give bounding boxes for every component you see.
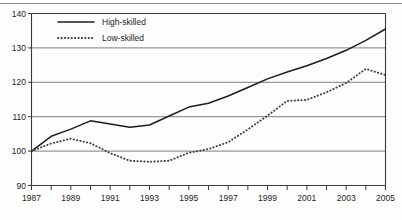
ytick-label-110: 110	[12, 112, 26, 122]
ytick-label-140: 140	[12, 9, 26, 19]
legend-label-low-skilled: Low-skilled	[102, 33, 144, 43]
xtick-label-2005: 2005	[376, 193, 395, 203]
xtick-label-1997: 1997	[219, 193, 238, 203]
series-line-high-skilled	[32, 29, 386, 151]
series-line-low-skilled	[32, 69, 386, 162]
xtick-label-1989: 1989	[61, 193, 80, 203]
ytick-label-100: 100	[12, 146, 26, 156]
xtick-label-1999: 1999	[258, 193, 277, 203]
chart-canvas: 9010011012013014019871989199119931995199…	[0, 0, 402, 220]
ytick-label-90: 90	[17, 181, 27, 191]
xtick-label-1995: 1995	[179, 193, 198, 203]
xtick-label-1993: 1993	[140, 193, 159, 203]
xtick-label-2001: 2001	[297, 193, 316, 203]
legend-label-high-skilled: High-skilled	[102, 17, 146, 27]
xtick-label-1987: 1987	[22, 193, 41, 203]
line-chart: 9010011012013014019871989199119931995199…	[0, 0, 402, 220]
xtick-label-1991: 1991	[101, 193, 120, 203]
ytick-label-120: 120	[12, 77, 26, 87]
xtick-label-2003: 2003	[337, 193, 356, 203]
ytick-label-130: 130	[12, 43, 26, 53]
